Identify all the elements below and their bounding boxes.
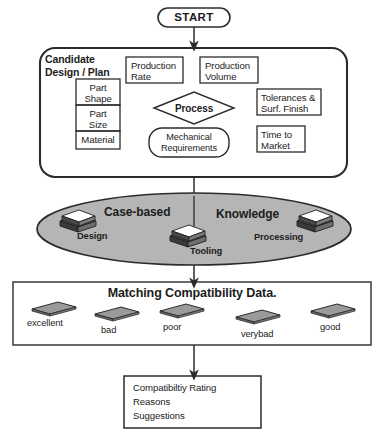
start-node-label: START [158, 11, 230, 23]
mechanical-requirements-label-line1: Mechanical [149, 132, 229, 142]
knowledge-source-label-processing: Processing [254, 232, 303, 242]
mechanical-requirements-label-line2: Requirements [149, 143, 229, 153]
knowledge-heading-case-based: Case-based [104, 205, 170, 219]
production-volume-label-line1: Production [205, 60, 250, 71]
rating-label-verybad: verybad [241, 329, 273, 339]
part-shape-label-line1: Part [76, 82, 120, 93]
rating-label-excellent: excellent [27, 318, 63, 328]
process-node-label: Process [164, 103, 224, 114]
candidate-block-title-line2: Design / Plan [45, 66, 110, 78]
flowchart-diagram: START Candidate Design / Plan Part Shape… [0, 0, 387, 442]
knowledge-heading-knowledge: Knowledge [216, 207, 279, 221]
material-label: Material [76, 134, 120, 145]
production-rate-label-line1: Production [131, 60, 176, 71]
rating-label-poor: poor [163, 322, 181, 332]
production-rate-label-line2: Rate [131, 71, 151, 82]
time-to-market-label-line2: Market [261, 140, 290, 151]
tolerances-label-line2: Surf. Finish [261, 103, 308, 114]
candidate-block-title-line1: Candidate [45, 53, 95, 65]
output-line-compatibility-rating: Compatibiltiy Rating [133, 382, 216, 393]
rating-plate-good [311, 304, 355, 318]
knowledge-source-label-design: Design [77, 231, 107, 241]
part-shape-label-line2: Shape [76, 93, 120, 104]
rating-label-good: good [320, 322, 340, 332]
rating-plate-poor [160, 304, 204, 318]
time-to-market-label-line1: Time to [261, 129, 292, 140]
output-line-suggestions: Suggestions [133, 410, 185, 421]
knowledge-source-label-tooling: Tooling [190, 246, 222, 256]
rating-label-bad: bad [101, 325, 116, 335]
tolerances-label-line1: Tolerances & [261, 92, 315, 103]
part-size-label-line1: Part [76, 108, 120, 119]
production-volume-label-line2: Volume [205, 71, 236, 82]
rating-plate-bad [95, 307, 139, 321]
matching-block-heading: Matching Compatibility Data. [13, 286, 371, 300]
rating-plate-excellent [32, 302, 76, 316]
output-line-reasons: Reasons [133, 396, 170, 407]
rating-plate-verybad [236, 310, 280, 324]
part-size-label-line2: Size [76, 119, 120, 130]
